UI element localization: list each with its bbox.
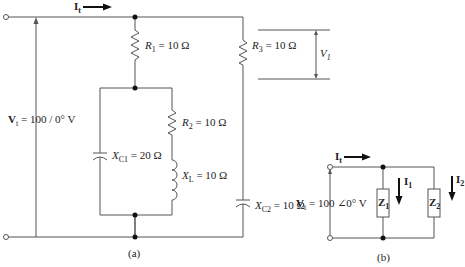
z2-label: Z2 [429, 197, 440, 211]
caption-b: (b) [377, 252, 390, 263]
source-vt-b-label: Vt = 100 ∠0° V [296, 198, 367, 212]
r3-label: R3 = 10 Ω [252, 40, 296, 54]
circuit-diagram [0, 0, 465, 267]
resistor-r3 [239, 40, 247, 65]
terminal-bottom-a [4, 235, 9, 240]
r1-label: R1 = 10 Ω [145, 40, 189, 54]
current-it-b-label: It [335, 151, 342, 165]
i2-label: I2 [456, 174, 464, 188]
z1-label: Z1 [378, 197, 389, 211]
current-it-label: It [74, 1, 81, 15]
xl-label: XL = 10 Ω [182, 170, 227, 184]
terminal-bottom-b [328, 236, 333, 241]
inductor-xl [172, 160, 177, 200]
caption-a: (a) [128, 248, 140, 259]
terminal-top-b [328, 165, 333, 170]
resistor-r2 [168, 110, 176, 135]
source-vt-label: Vt = 100 / 0° V [8, 114, 75, 128]
v1-label: V1 [320, 48, 331, 62]
i1-label: I1 [404, 176, 412, 190]
resistor-r1 [131, 30, 139, 60]
terminal-top-a [4, 15, 9, 20]
r2-label: R2 = 10 Ω [182, 117, 226, 131]
xc1-label: XC1 = 20 Ω [112, 150, 162, 164]
